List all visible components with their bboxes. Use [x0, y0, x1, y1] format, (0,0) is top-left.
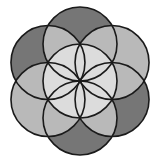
seed-of-life-diagram: [0, 0, 161, 163]
